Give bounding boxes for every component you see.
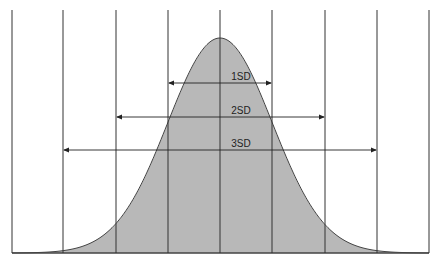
sd-vertical-lines xyxy=(12,10,429,253)
normal-distribution-diagram: 1SD2SD3SD xyxy=(0,0,435,258)
label-3sd: 3SD xyxy=(231,138,250,149)
label-2sd: 2SD xyxy=(231,105,250,116)
diagram-canvas: 1SD2SD3SD xyxy=(0,0,435,258)
label-1sd: 1SD xyxy=(231,71,250,82)
